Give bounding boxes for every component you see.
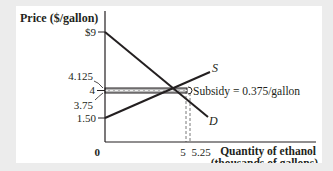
y-tick-9: $9 <box>85 26 97 38</box>
demand-curve <box>105 32 208 117</box>
x-tick-5: 5 <box>180 146 186 158</box>
y-tick-3-75: 3.75 <box>74 99 94 111</box>
y-axis-label: Price ($/gallon) <box>20 11 98 25</box>
y-tick-1-50: 1.50 <box>77 112 97 124</box>
x-axis-label-line2: (thousands of gallons) <box>211 157 319 163</box>
leader-3-75 <box>95 93 103 100</box>
subsidy-annotation: Subsidy = 0.375/gallon <box>193 85 300 98</box>
demand-label: D <box>208 114 218 128</box>
leader-4-125 <box>94 81 103 88</box>
supply-label: S <box>212 61 218 75</box>
y-tick-4-125: 4.125 <box>68 70 93 82</box>
y-tick-4: 4 <box>90 84 96 96</box>
supply-demand-chart: Price ($/gallon) $9 4.125 4 3.75 1.50 0 … <box>16 6 322 163</box>
x-tick-5-25: 5.25 <box>191 146 211 158</box>
subsidy-brace <box>188 87 192 94</box>
chart-card: Price ($/gallon) $9 4.125 4 3.75 1.50 0 … <box>16 6 322 163</box>
origin-label: 0 <box>95 146 101 158</box>
